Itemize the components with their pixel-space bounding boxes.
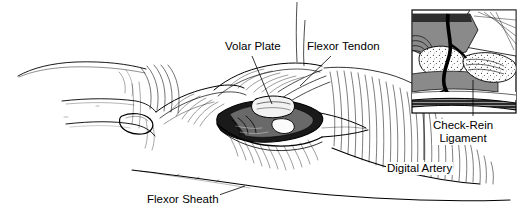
sagittal-detail-inset [412, 10, 516, 113]
anatomy-figure: Volar Plate Flexor Tendon Flexor Sheath … [0, 0, 519, 219]
label-flexor-tendon: Flexor Tendon [306, 40, 381, 53]
label-check-rein-ligament: Check-Rein Ligament [432, 119, 494, 145]
illustration-canvas [0, 0, 519, 219]
label-volar-plate: Volar Plate [224, 40, 282, 53]
label-digital-artery: Digital Artery [386, 162, 453, 175]
label-check-rein-line2: Ligament [433, 132, 493, 145]
label-check-rein-line1: Check-Rein [433, 119, 493, 132]
label-flexor-sheath: Flexor Sheath [146, 193, 220, 206]
